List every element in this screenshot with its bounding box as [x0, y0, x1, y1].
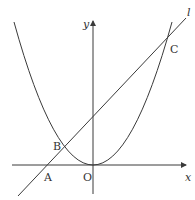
graph-svg: y x O l C B A: [0, 0, 195, 200]
point-a-label: A: [43, 171, 53, 184]
origin-label: O: [83, 171, 92, 184]
point-c-label: C: [170, 43, 178, 56]
x-axis-label: x: [185, 171, 192, 184]
point-b-label: B: [53, 140, 61, 153]
line-l-label: l: [187, 6, 191, 19]
y-axis-label: y: [82, 18, 90, 31]
diagram-canvas: y x O l C B A: [0, 0, 195, 200]
